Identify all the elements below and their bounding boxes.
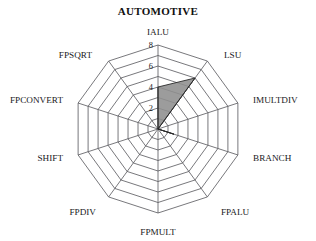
radar-spoke-fpalu: [158, 129, 207, 197]
radar-axis-label-fpmult: FPMULT: [140, 227, 176, 237]
radar-axis-label-fpconvert: FPCONVERT: [10, 95, 63, 105]
radar-tick-label: 2: [149, 104, 153, 113]
radar-chart-canvas: 8642 IALULSUIMULTDIVBRANCHFPALUFPMULTFPD…: [0, 0, 316, 241]
radar-axis-label-ialu: IALU: [147, 27, 169, 37]
radar-tick-label: 4: [149, 83, 154, 92]
radar-axis-labels: IALULSUIMULTDIVBRANCHFPALUFPMULTFPDIVSHI…: [10, 27, 298, 237]
radar-data-series: [158, 78, 195, 134]
radar-axis-label-fpdiv: FPDIV: [69, 207, 96, 217]
radar-tick-label: 8: [149, 41, 153, 50]
radar-tick-labels: 8642: [149, 41, 154, 113]
radar-axis-label-branch: BRANCH: [253, 153, 292, 163]
radar-chart: AUTOMOTIVE 8642 IALULSUIMULTDIVBRANCHFPA…: [0, 0, 316, 241]
radar-spoke-fpdiv: [109, 129, 158, 197]
radar-axis-label-shift: SHIFT: [37, 153, 63, 163]
radar-axis-label-imultdiv: IMULTDIV: [253, 95, 298, 105]
radar-tick-label: 6: [149, 62, 153, 71]
radar-axis-label-fpsqrt: FPSQRT: [59, 50, 93, 60]
radar-data-spoke-branch: [158, 129, 174, 134]
radar-axis-label-fpalu: FPALU: [221, 207, 250, 217]
radar-data-polygon: [158, 78, 195, 134]
chart-title: AUTOMOTIVE: [0, 5, 316, 17]
radar-axis-label-lsu: LSU: [224, 50, 242, 60]
radar-spoke-fpsqrt: [109, 61, 158, 129]
